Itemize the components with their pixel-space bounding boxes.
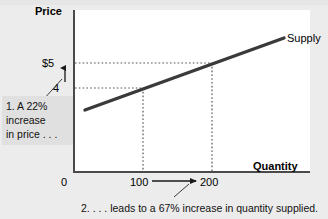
- supply-curve: [85, 38, 284, 110]
- supply-curve-figure: Price Quantity $5 4 0 100 200: [0, 0, 328, 219]
- annotation-price-increase-line-1: 1. A 22%: [6, 99, 70, 113]
- callout-2-leader-line: [174, 184, 189, 197]
- annotation-price-increase: 1. A 22% increase in price . . .: [2, 96, 73, 145]
- annotation-price-increase-line-3: in price . . .: [6, 127, 70, 141]
- annotation-quantity-increase: 2. . . . leads to a 67% increase in quan…: [78, 199, 321, 217]
- supply-curve-label: Supply: [287, 32, 321, 44]
- annotation-price-increase-line-2: increase: [6, 113, 70, 127]
